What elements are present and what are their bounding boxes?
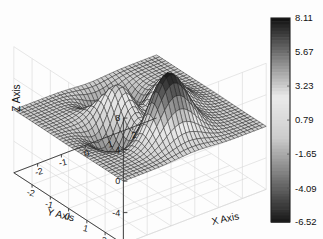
plot-canvas: 840-4-8-2-1012210-1-2 8.115.673.230.79-1…: [0, 0, 323, 239]
colorbar-group: 8.115.673.230.79-1.65-4.09-6.52: [271, 12, 317, 227]
colorbar-tick-label: 0.79: [295, 114, 314, 125]
z-axis-title: Z Axis: [11, 84, 22, 111]
colorbar-tick-label: -1.65: [295, 148, 317, 159]
y-tick-label: 2: [100, 235, 107, 239]
z-tick-label: 0: [115, 176, 120, 186]
colorbar-tick-label: -4.09: [295, 183, 317, 194]
x-axis-title: X Axis: [211, 210, 240, 227]
z-tick-label: -4: [112, 208, 120, 218]
y-axis-title: Y Axis: [46, 206, 75, 223]
y-tick-label: -2: [26, 187, 36, 199]
colorbar-tick-label: 3.23: [295, 80, 314, 91]
y-tick-label: 1: [82, 223, 89, 234]
colorbar-tick-label: -6.52: [295, 216, 317, 227]
surface-plot-figure: 840-4-8-2-1012210-1-2 8.115.673.230.79-1…: [0, 0, 323, 239]
colorbar-tick-label: 5.67: [295, 46, 314, 57]
z-tick-label: 4: [115, 145, 120, 155]
z-tick-label: 8: [115, 113, 120, 123]
x-tick-label: -2: [34, 166, 44, 177]
surface-mesh: [14, 55, 266, 181]
colorbar-tick-label: 8.11: [295, 12, 313, 23]
x-tick-label: -1: [58, 157, 68, 168]
